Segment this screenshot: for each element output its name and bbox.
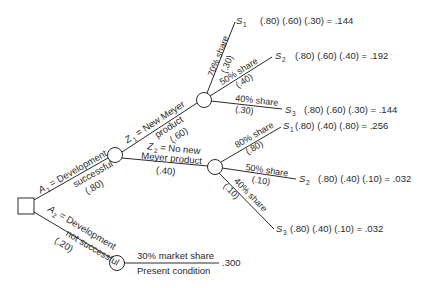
present-line2: Present condition [137, 265, 210, 276]
outcome-sub: 3 [283, 229, 287, 236]
branch-label-lower-s2: 50% share (.10) [243, 162, 289, 189]
outcome-expr: (.80) (.40) (.10) = .032 [318, 173, 411, 184]
outcome-expr: (.80) (.40) (.80) = .256 [295, 120, 388, 131]
present-line1: 30% market share [137, 250, 214, 261]
outcome-sub: 3 [292, 110, 296, 117]
outcome-sub: 2 [282, 56, 286, 63]
outcome-sub: 1 [243, 21, 247, 28]
branch-label-lower-s1: 80% share (.80) [233, 120, 281, 160]
outcome-lower-s3: S 3 (.80) (.40) (.10) = .032 [276, 223, 383, 236]
lower-s2-prob: (.10) [251, 174, 271, 187]
chance-node-new-product[interactable] [197, 93, 212, 108]
outcome-lower-s1: S 1 (.80) (.40) (.80) = .256 [283, 120, 388, 133]
outcome-upper-s3: S 3 (.80) (.60) (.30) = .144 [285, 104, 397, 117]
decision-node[interactable] [18, 198, 34, 214]
outcome-lower-s2: S 2 (.80) (.40) (.10) = .032 [299, 173, 411, 186]
outcome-state: S [285, 104, 292, 115]
outcome-state: S [299, 173, 306, 184]
outcome-state: S [283, 120, 290, 131]
outcome-upper-s1: S 1 (.80) (.60) (.30) = .144 [236, 15, 353, 28]
outcome-state: S [276, 223, 283, 234]
outcome-sub: 1 [290, 126, 294, 133]
outcome-expr: (.80) (.60) (.40) = .192 [295, 50, 388, 61]
branch-label-z2: Z 2 = No new Meyer product (.40) [140, 140, 204, 179]
z2-prob: (.40) [156, 164, 176, 177]
upper-s3-prob: (.30) [235, 104, 255, 116]
outcome-expr: (.80) (.40) (.10) = .032 [290, 223, 383, 234]
outcome-upper-s2: S 2 (.80) (.60) (.40) = .192 [275, 50, 388, 63]
outcome-expr: .300 [222, 257, 241, 268]
outcome-state: S [275, 50, 282, 61]
branch-label-a1: A 1 = Development successful (.80) [35, 147, 121, 216]
decision-tree: A 1 = Development successful (.80) A 2 =… [0, 0, 424, 288]
outcome-sub: 2 [306, 179, 310, 186]
outcome-state: S [236, 15, 243, 26]
outcome-present: .300 [222, 257, 241, 268]
chance-node-no-new-product[interactable] [208, 160, 223, 175]
outcome-expr: (.80) (.60) (.30) = .144 [304, 104, 397, 115]
outcome-expr: (.80) (.60) (.30) = .144 [260, 15, 353, 26]
